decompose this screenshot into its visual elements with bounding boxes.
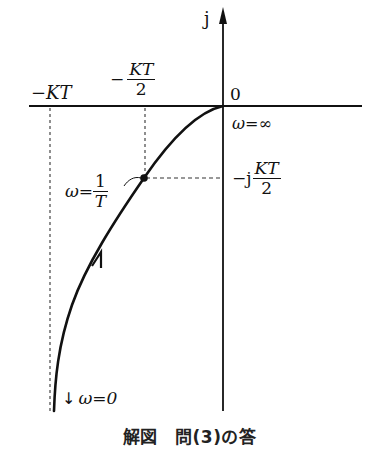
imag-axis-arrow-icon bbox=[219, 7, 227, 24]
fraction-numerator: 1 bbox=[93, 173, 108, 192]
fraction-denominator: 2 bbox=[261, 179, 272, 197]
omega-prefix: ω= bbox=[65, 181, 93, 201]
neg-kt-half-label: −KT2 bbox=[110, 61, 155, 98]
fraction-numerator: KT bbox=[253, 160, 281, 179]
neg-j-prefix: −j bbox=[232, 168, 252, 188]
omega-1-over-t-label: ω=1T bbox=[65, 173, 108, 210]
figure-caption: 解図 問(3)の答 bbox=[0, 423, 379, 448]
omega-zero-text: ω=0 bbox=[78, 388, 117, 408]
plot-canvas bbox=[0, 0, 379, 474]
omega-zero-label: ↓ω=0 bbox=[62, 390, 117, 407]
imaginary-axis-label: j bbox=[204, 10, 210, 28]
neg-kt-label: −KT bbox=[31, 84, 72, 102]
neg-kt-half-fraction: KT2 bbox=[127, 61, 155, 98]
neg-j-kt-half-fraction: KT2 bbox=[253, 160, 281, 197]
down-arrow-icon: ↓ bbox=[62, 389, 75, 408]
omega-fraction: 1T bbox=[93, 173, 108, 210]
fraction-denominator: 2 bbox=[136, 80, 147, 98]
neg-j-kt-half-label: −jKT2 bbox=[232, 160, 281, 197]
neg-kt-half-sign: − bbox=[110, 69, 124, 89]
origin-label: 0 bbox=[230, 86, 241, 103]
frequency-locus-curve bbox=[54, 106, 223, 411]
fraction-denominator: T bbox=[95, 192, 106, 210]
omega-infinity-label: ω=∞ bbox=[232, 116, 272, 132]
nyquist-plot-figure: j 0 ω=∞ −KT −KT2 −jKT2 ω=1T ↓ω=0 解図 問(3)… bbox=[0, 0, 379, 474]
omega-1-over-t-point bbox=[140, 174, 148, 182]
fraction-numerator: KT bbox=[127, 61, 155, 80]
